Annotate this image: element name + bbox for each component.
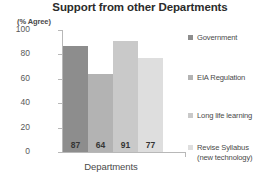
legend-item-label-line2: (new technology) bbox=[197, 153, 252, 163]
legend-item-label: Government bbox=[197, 33, 237, 43]
bar-value-label: 64 bbox=[88, 141, 113, 150]
legend-item-label: Long life learning bbox=[197, 111, 252, 121]
x-axis-line bbox=[62, 152, 186, 153]
y-axis-tick-mark bbox=[58, 30, 62, 31]
bar-chart: Support from other Departments (% Agree)… bbox=[0, 0, 276, 187]
legend-item-label: EIA Regulation bbox=[197, 73, 245, 83]
legend-item-label: Revise Syllabus(new technology) bbox=[197, 143, 252, 162]
bar-value-label: 91 bbox=[113, 141, 138, 150]
y-axis-tick-mark bbox=[58, 128, 62, 129]
legend-item[interactable]: Government bbox=[188, 33, 276, 43]
y-axis-tick-label: 60 bbox=[0, 74, 30, 83]
legend-item[interactable]: EIA Regulation bbox=[188, 73, 276, 83]
legend-swatch-icon bbox=[188, 113, 193, 118]
bars-layer: 87649177 bbox=[63, 30, 164, 152]
chart-legend: GovernmentEIA RegulationLong life learni… bbox=[188, 33, 276, 158]
legend-item[interactable]: Revise Syllabus(new technology) bbox=[188, 143, 276, 162]
x-axis-end-tick bbox=[185, 152, 186, 157]
legend-swatch-icon bbox=[188, 75, 193, 80]
legend-swatch-icon bbox=[188, 145, 193, 150]
y-axis-tick-mark bbox=[58, 79, 62, 80]
y-axis-tick-label: 0 bbox=[0, 147, 30, 156]
y-axis-tick-mark bbox=[58, 152, 62, 153]
x-axis-title: Departments bbox=[36, 161, 186, 172]
y-axis-tick-label: 80 bbox=[0, 49, 30, 58]
chart-title: Support from other Departments bbox=[40, 1, 240, 13]
bar-value-label: 87 bbox=[63, 141, 88, 150]
plot-area: 100806040200 87649177 bbox=[36, 30, 186, 155]
bar-value-label: 77 bbox=[138, 141, 163, 150]
bar[interactable] bbox=[138, 58, 163, 152]
y-axis-tick-mark bbox=[58, 103, 62, 104]
y-axis-tick-mark bbox=[58, 54, 62, 55]
y-axis-tick-label: 20 bbox=[0, 123, 30, 132]
bar[interactable] bbox=[63, 46, 88, 152]
y-axis-tick-label: 40 bbox=[0, 98, 30, 107]
legend-swatch-icon bbox=[188, 35, 193, 40]
bar[interactable] bbox=[113, 41, 138, 152]
legend-item[interactable]: Long life learning bbox=[188, 111, 276, 121]
y-axis-tick-label: 100 bbox=[0, 25, 30, 34]
